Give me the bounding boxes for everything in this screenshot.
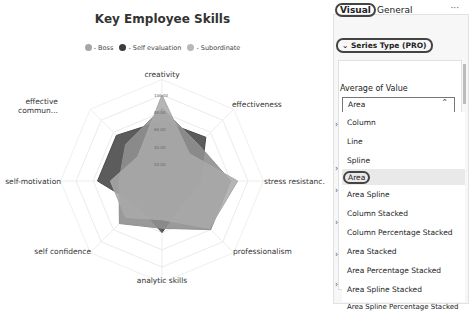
chevron-right-icon[interactable]: › (335, 164, 338, 173)
chevron-up-icon: ⌃ (441, 98, 448, 107)
tab-general[interactable]: General (377, 5, 412, 15)
format-panel: Visual General ··· ⌄ Series Type (PRO) A… (333, 0, 473, 303)
axis-label: stress resistanc... (264, 177, 325, 186)
option-area-spline-percentage-stacked[interactable]: Area Spline Percentage Stacked (347, 303, 459, 311)
axis-label: commun... (18, 106, 58, 115)
option-area-spline-stacked[interactable]: Area Spline Stacked (347, 285, 422, 294)
option-area-spline[interactable]: Area Spline (347, 190, 390, 199)
chevron-right-icon[interactable]: › (335, 218, 338, 227)
series-type-section-header[interactable]: ⌄ Series Type (PRO) (336, 38, 433, 53)
more-options-icon[interactable]: ··· (450, 3, 459, 13)
select-value: Area (348, 100, 365, 109)
tick-label: 80.00 (154, 110, 166, 115)
radar-plot: 100.0080.0060.0040.0020.00creativityeffe… (0, 0, 325, 303)
option-column-percentage-stacked[interactable]: Column Percentage Stacked (347, 228, 453, 237)
option-area[interactable]: Area (343, 171, 370, 184)
scrollbar[interactable] (463, 64, 466, 104)
chevron-right-icon[interactable]: › (335, 186, 338, 195)
axis-label: analytic skills (137, 276, 188, 285)
series-type-select[interactable]: Area ⌃ (342, 97, 455, 113)
panel-tabs: Visual General ··· (333, 0, 467, 24)
option-column[interactable]: Column (347, 118, 376, 127)
option-spline[interactable]: Spline (347, 156, 370, 165)
tab-visual[interactable]: Visual (335, 3, 376, 17)
tick-label: 100.00 (154, 93, 168, 98)
option-area-stacked[interactable]: Area Stacked (347, 247, 397, 256)
option-column-stacked[interactable]: Column Stacked (347, 209, 408, 218)
chevron-down-icon: ⌄ (342, 41, 348, 50)
series-type-dropdown: Column Line Spline Area Area Spline Colu… (342, 112, 465, 302)
axis-label: professionalism (233, 247, 292, 256)
option-area-percentage-stacked[interactable]: Area Percentage Stacked (347, 266, 441, 275)
tick-label: 20.00 (154, 162, 166, 167)
radar-chart-visual: Key Employee Skills - Boss - Self evalua… (0, 0, 325, 303)
chevron-right-icon[interactable]: › (335, 120, 338, 129)
chevron-right-icon[interactable]: › (335, 280, 338, 289)
field-label: Average of Value (340, 84, 408, 93)
tick-label: 40.00 (154, 145, 166, 150)
axis-label: self-motivation (5, 177, 61, 186)
axis-label: effective (25, 97, 58, 106)
tick-label: 60.00 (154, 127, 166, 132)
axis-label: self confidence (34, 247, 91, 256)
option-line[interactable]: Line (347, 137, 363, 146)
axis-label: effectiveness (232, 100, 282, 109)
chevron-right-icon[interactable]: › (335, 250, 338, 259)
axis-label: creativity (144, 70, 180, 79)
